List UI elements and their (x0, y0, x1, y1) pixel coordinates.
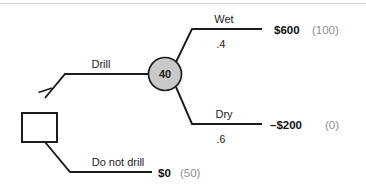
rollback-value-dry: (0) (325, 119, 339, 131)
payoff-wet: $600 (274, 24, 300, 36)
tree-canvas: 40 Drill Wet .4 $600 (100) Dry .6 –$200 … (0, 0, 366, 194)
decision-tree-diagram: 40 Drill Wet .4 $600 (100) Dry .6 –$200 … (0, 0, 366, 194)
branch-probability-wet: .4 (217, 38, 226, 50)
branch-probability-dry: .6 (217, 133, 226, 145)
branch-line-drill (45, 74, 150, 98)
rollback-value-wet: (100) (312, 24, 339, 36)
branch-label-dry: Dry (215, 108, 233, 120)
payoff-dry: –$200 (270, 119, 302, 131)
decision-node-square[interactable] (22, 113, 57, 142)
branch-label-wet: Wet (214, 13, 233, 25)
payoff-do-not-drill: $0 (158, 167, 171, 179)
branch-label-do-not-drill: Do not drill (92, 156, 145, 168)
rollback-value-do-not-drill: (50) (180, 167, 201, 179)
chance-node-value: 40 (159, 68, 171, 80)
branch-label-drill: Drill (92, 58, 111, 70)
